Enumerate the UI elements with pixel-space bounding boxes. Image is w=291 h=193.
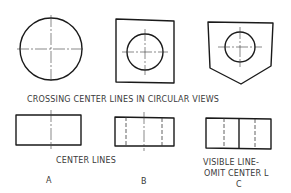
rectangle-outline [115,117,174,146]
view-b-circular [116,19,174,83]
caption-center-lines: CENTER LINES [56,156,116,165]
pentagon-outline [208,22,273,84]
view-c-circular [208,22,273,84]
view-b-side [115,112,174,151]
label-b: B [141,177,147,186]
label-a: A [46,176,52,185]
view-a-circular [17,15,85,82]
caption-crossing-center-lines: CROSSING CENTER LINES IN CIRCULAR VIEWS [27,95,219,104]
center-lines-diagram: CROSSING CENTER LINES IN CIRCULAR VIEWS … [0,0,291,193]
view-a-side [16,110,81,149]
view-c-side [206,118,271,149]
caption-omit-center-line: OMIT CENTER L [204,169,269,178]
diagram-canvas: CROSSING CENTER LINES IN CIRCULAR VIEWS … [0,0,291,193]
label-c: C [236,180,242,189]
rectangle-outline [16,115,81,145]
caption-visible-line: VISIBLE LINE- [203,158,259,167]
